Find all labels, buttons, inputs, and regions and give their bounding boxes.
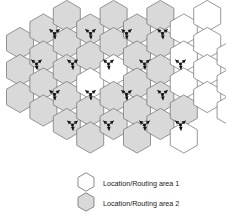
antenna-hub bbox=[107, 124, 110, 127]
hex-cell-area-2 bbox=[77, 14, 104, 45]
legend-item-area-2: Location/Routing area 2 bbox=[78, 193, 179, 211]
antenna-hub bbox=[179, 63, 182, 66]
legend: Location/Routing area 1 Location/Routing… bbox=[78, 173, 179, 211]
hex-cell-area-2 bbox=[77, 41, 104, 72]
hex-cell-area-2 bbox=[77, 122, 104, 153]
hex-cell-area-1 bbox=[170, 14, 197, 45]
hex-cell-area-2 bbox=[6, 81, 33, 112]
hex-cell-grid bbox=[6, 0, 226, 153]
hex-cell-area-1 bbox=[100, 54, 127, 85]
antenna-hub bbox=[107, 63, 110, 66]
antenna-hub bbox=[71, 63, 74, 66]
hex-cell-area-2 bbox=[147, 54, 174, 85]
hex-cell-area-2 bbox=[6, 27, 33, 58]
antenna-hub bbox=[125, 93, 128, 96]
cellular-network-diagram: Location/Routing area 1 Location/Routing… bbox=[0, 0, 226, 219]
hex-cell-area-2 bbox=[30, 95, 57, 126]
hex-cell-area-2 bbox=[53, 0, 80, 31]
antenna-hub bbox=[143, 63, 146, 66]
hex-cell-area-1 bbox=[194, 27, 221, 58]
hex-cell-area-2 bbox=[100, 108, 127, 139]
hex-cell-area-2 bbox=[147, 108, 174, 139]
hex-cell-area-1 bbox=[194, 0, 221, 31]
hex-cell-area-2 bbox=[30, 41, 57, 72]
hex-cell-area-1 bbox=[194, 54, 221, 85]
hex-cell-area-2 bbox=[100, 81, 127, 112]
hex-cell-area-2 bbox=[77, 95, 104, 126]
hex-cell-area-2 bbox=[53, 54, 80, 85]
hex-cell-area-2 bbox=[147, 81, 174, 112]
hex-cell-area-2 bbox=[147, 0, 174, 31]
hex-cell-area-2 bbox=[6, 54, 33, 85]
antenna-hub bbox=[71, 124, 74, 127]
hex-cell-area-1 bbox=[170, 68, 197, 99]
hex-cell-area-1 bbox=[170, 122, 197, 153]
antenna-hub bbox=[179, 124, 182, 127]
legend-swatch-area-1 bbox=[78, 173, 94, 191]
antenna-hub bbox=[125, 32, 128, 35]
legend-label-area-1: Location/Routing area 1 bbox=[103, 179, 179, 188]
antenna-hub bbox=[161, 32, 164, 35]
hex-cell-area-2 bbox=[30, 68, 57, 99]
antenna-hub bbox=[53, 32, 56, 35]
antenna-hub bbox=[53, 93, 56, 96]
antenna-hub bbox=[161, 93, 164, 96]
hex-cell-area-1 bbox=[170, 41, 197, 72]
hex-cell-area-2 bbox=[123, 122, 150, 153]
antenna-hub bbox=[35, 63, 38, 66]
antenna-hub bbox=[143, 124, 146, 127]
antenna-hub bbox=[89, 93, 92, 96]
hex-cell-area-2 bbox=[123, 95, 150, 126]
hex-cell-area-2 bbox=[123, 14, 150, 45]
hex-cell-area-2 bbox=[123, 41, 150, 72]
hex-cell-area-2 bbox=[53, 81, 80, 112]
legend-label-area-2: Location/Routing area 2 bbox=[103, 199, 179, 208]
legend-swatch-area-2 bbox=[78, 193, 94, 211]
legend-item-area-1: Location/Routing area 1 bbox=[78, 173, 179, 191]
hex-cell-area-2 bbox=[30, 14, 57, 45]
antenna-hub bbox=[89, 32, 92, 35]
hex-cell-area-2 bbox=[100, 0, 127, 31]
hex-cell-area-1 bbox=[194, 81, 221, 112]
